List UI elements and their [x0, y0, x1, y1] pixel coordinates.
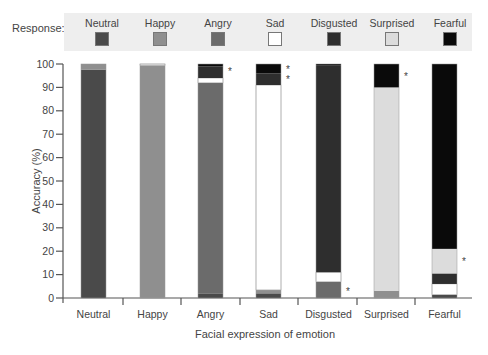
bar-segment-angry-sad — [198, 78, 223, 83]
significance-asterisk: * — [462, 256, 466, 267]
bar-segment-angry-fearful — [198, 64, 223, 66]
significance-asterisk: * — [228, 66, 232, 77]
x-tick-label: Happy — [137, 308, 168, 320]
bar-segment-fearful-sad — [432, 284, 457, 295]
bar-segment-happy-happy — [140, 65, 165, 298]
y-tick-label: 60 — [42, 151, 54, 163]
bar-segment-disgusted-sad — [316, 272, 341, 281]
bar-segment-fearful-fearful — [432, 64, 457, 249]
bar-segment-neutral-happy — [81, 64, 106, 70]
x-tick-label: Surprised — [364, 308, 409, 320]
bar-segment-surprised-fearful — [374, 64, 399, 87]
y-tick-label: 90 — [42, 81, 54, 93]
x-tick-label: Neutral — [77, 308, 111, 320]
y-tick-label: 70 — [42, 128, 54, 140]
y-tick-label: 100 — [36, 58, 54, 70]
x-tick-label: Disgusted — [305, 308, 352, 320]
bar-segment-angry-disgusted — [198, 66, 223, 78]
bar-segment-surprised-happy — [374, 291, 399, 298]
y-tick-label: 20 — [42, 245, 54, 257]
bar-segment-fearful-disgusted — [432, 273, 457, 284]
bar-segment-surprised-surprised — [374, 87, 399, 291]
bar-segment-disgusted-angry — [316, 282, 341, 298]
bar-segment-sad-happy — [256, 290, 281, 294]
significance-asterisk: * — [286, 64, 290, 75]
bar-segment-sad-disgusted — [256, 73, 281, 85]
stacked-bar-chart: 0102030405060708090100Accuracy (%)Facial… — [0, 0, 488, 355]
x-tick-label: Sad — [259, 308, 278, 320]
y-axis-title: Accuracy (%) — [30, 148, 42, 213]
y-tick-label: 10 — [42, 268, 54, 280]
bar-segment-fearful-neutral — [432, 294, 457, 298]
bar-segment-sad-fearful — [256, 64, 281, 73]
significance-asterisk: * — [286, 74, 290, 85]
y-tick-label: 30 — [42, 221, 54, 233]
bar-segment-disgusted-disgusted — [316, 65, 341, 272]
significance-asterisk: * — [346, 286, 350, 297]
y-tick-label: 40 — [42, 198, 54, 210]
bar-segment-fearful-surprised — [432, 249, 457, 274]
y-tick-label: 50 — [42, 175, 54, 187]
bar-segment-sad-neutral — [256, 293, 281, 298]
y-tick-label: 0 — [48, 292, 54, 304]
x-tick-label: Angry — [197, 308, 225, 320]
x-tick-label: Fearful — [428, 308, 461, 320]
bar-segment-angry-angry — [198, 83, 223, 294]
x-axis-title: Facial expression of emotion — [195, 328, 335, 340]
bar-segment-angry-neutral — [198, 293, 223, 298]
bar-segment-sad-sad — [256, 85, 281, 290]
bar-segment-neutral-neutral — [81, 70, 106, 298]
significance-asterisk: * — [404, 71, 408, 82]
y-tick-label: 80 — [42, 104, 54, 116]
